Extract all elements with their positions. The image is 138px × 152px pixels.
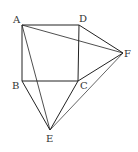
label-F: F — [124, 48, 131, 59]
segment-BE — [22, 81, 50, 130]
segment-DC — [78, 25, 79, 81]
segment-EF — [50, 53, 123, 130]
segment-DF — [79, 25, 123, 53]
geometry-svg: A D B C E F — [0, 0, 138, 152]
geometry-figure: A D B C E F — [0, 0, 138, 152]
segment-CE — [50, 81, 78, 130]
label-C: C — [80, 80, 88, 91]
label-E: E — [46, 133, 53, 144]
label-B: B — [12, 80, 19, 91]
segment-AF — [22, 25, 123, 53]
label-A: A — [12, 14, 21, 25]
label-D: D — [79, 13, 87, 24]
segment-AE — [22, 25, 50, 130]
